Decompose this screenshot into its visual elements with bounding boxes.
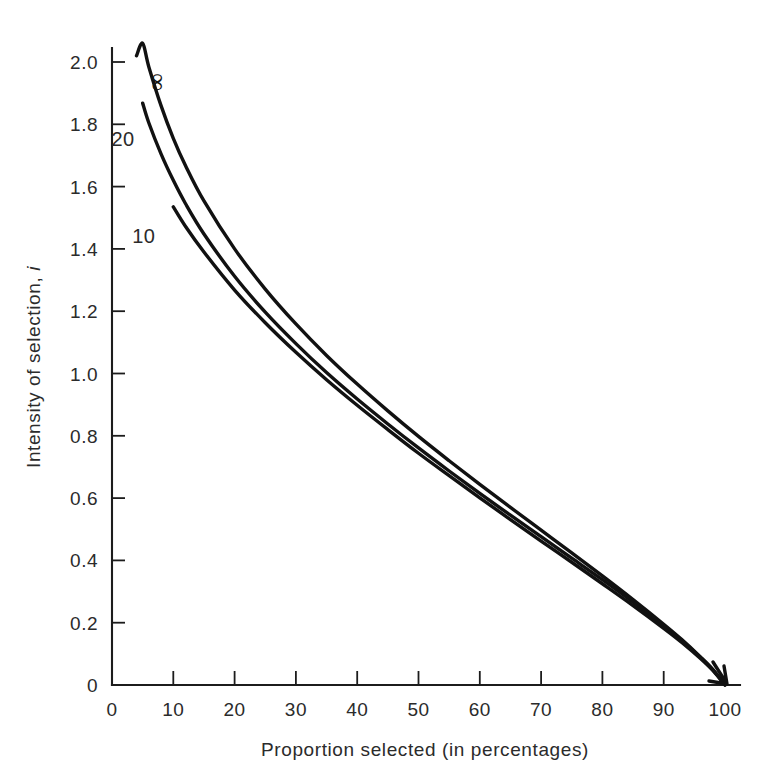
curve-label-20: 20 xyxy=(111,128,134,150)
y-tick-label: 1.8 xyxy=(70,114,98,135)
x-tick-label: 40 xyxy=(346,699,368,720)
y-tick-label: 0.4 xyxy=(70,550,98,571)
x-tick-marks xyxy=(173,671,663,685)
y-tick-labels: 00.20.40.60.81.01.21.41.61.82.0 xyxy=(70,52,98,696)
data-curve-infinity xyxy=(137,43,725,685)
chart-figure: 00.20.40.60.81.01.21.41.61.82.0 01020304… xyxy=(0,0,767,779)
x-tick-label: 100 xyxy=(708,699,741,720)
x-tick-label: 10 xyxy=(162,699,184,720)
chart-plot-area: 00.20.40.60.81.01.21.41.61.82.0 01020304… xyxy=(0,0,767,779)
x-tick-label: 30 xyxy=(285,699,307,720)
y-tick-label: 1.0 xyxy=(70,364,98,385)
x-tick-label: 20 xyxy=(224,699,246,720)
x-tick-labels: 0102030405060708090100 xyxy=(106,699,741,720)
y-axis-title: Intensity of selection, i xyxy=(23,266,44,468)
data-curve-n20 xyxy=(143,103,725,685)
y-axis-title-group: Intensity of selection, i xyxy=(23,266,44,468)
y-tick-label: 0 xyxy=(87,675,98,696)
x-tick-label: 80 xyxy=(591,699,613,720)
x-tick-label: 70 xyxy=(530,699,552,720)
x-tick-label: 60 xyxy=(469,699,491,720)
x-axis-title: Proportion selected (in percentages) xyxy=(261,739,589,760)
y-tick-label: 2.0 xyxy=(70,52,98,73)
x-tick-label: 50 xyxy=(407,699,429,720)
curve-label-10: 10 xyxy=(132,225,155,247)
y-tick-label: 0.6 xyxy=(70,488,98,509)
curve-label-infinity: ∞ xyxy=(145,73,172,91)
y-tick-label: 0.2 xyxy=(70,613,98,634)
data-curves xyxy=(137,43,725,685)
y-tick-label: 1.6 xyxy=(70,177,98,198)
curve-arrowhead xyxy=(709,662,727,684)
x-tick-label: 0 xyxy=(106,699,117,720)
axes xyxy=(112,48,740,685)
y-tick-label: 1.4 xyxy=(70,239,98,260)
y-tick-label: 0.8 xyxy=(70,426,98,447)
y-tick-label: 1.2 xyxy=(70,301,98,322)
x-tick-label: 90 xyxy=(653,699,675,720)
